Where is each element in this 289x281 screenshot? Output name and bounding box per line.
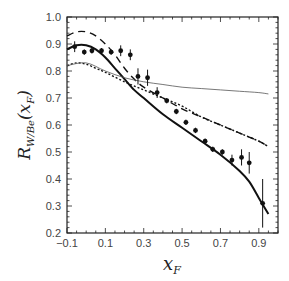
y-tick-label: 0.3: [46, 200, 61, 212]
curve-dashed: [67, 31, 268, 146]
x-axis-title: xF: [163, 253, 181, 277]
y-tick-label: 0.9: [46, 38, 61, 50]
data-point: [82, 50, 87, 55]
x-tick-label: 0.5: [174, 237, 189, 249]
data-point: [90, 48, 95, 53]
x-tick-label: −0.1: [56, 237, 78, 249]
y-tick-label: 0.5: [46, 146, 61, 158]
data-point: [136, 74, 141, 79]
y-tick-label: 0.4: [46, 173, 61, 185]
data-point: [164, 98, 169, 103]
axis-ticks: 0.20.30.40.50.60.70.80.91.0−0.10.10.30.5…: [46, 11, 278, 249]
curve-solid-thick: [67, 45, 268, 214]
data-point: [155, 90, 160, 95]
x-tick-label: 0.1: [98, 237, 113, 249]
x-tick-label: 0.3: [136, 237, 151, 249]
plot-frame: [67, 17, 278, 233]
data-point: [230, 158, 235, 163]
data-point: [72, 44, 77, 49]
data-point: [203, 139, 208, 144]
curve-thin-solid: [67, 63, 268, 94]
chart: 0.20.30.40.50.60.70.80.91.0−0.10.10.30.5…: [0, 0, 289, 281]
data-point: [109, 50, 114, 55]
data-point: [260, 201, 265, 206]
data-point: [193, 128, 198, 133]
data-point: [210, 147, 215, 152]
data-point: [239, 155, 244, 160]
curves: [67, 31, 268, 214]
y-tick-label: 0.6: [46, 119, 61, 131]
data-point: [220, 150, 225, 155]
y-axis-title: RW/Be(xF): [14, 90, 36, 161]
data-point: [118, 48, 123, 53]
y-tick-label: 1.0: [46, 11, 61, 23]
data-point: [184, 120, 189, 125]
y-tick-label: 0.7: [46, 92, 61, 104]
y-tick-label: 0.8: [46, 65, 61, 77]
data-point: [99, 48, 104, 53]
data-point: [145, 75, 150, 80]
x-tick-label: 0.9: [251, 237, 266, 249]
curve-dotted: [67, 63, 268, 147]
data-point: [128, 52, 133, 57]
data-point: [174, 109, 179, 114]
data-point: [247, 160, 252, 165]
x-tick-label: 0.7: [213, 237, 228, 249]
